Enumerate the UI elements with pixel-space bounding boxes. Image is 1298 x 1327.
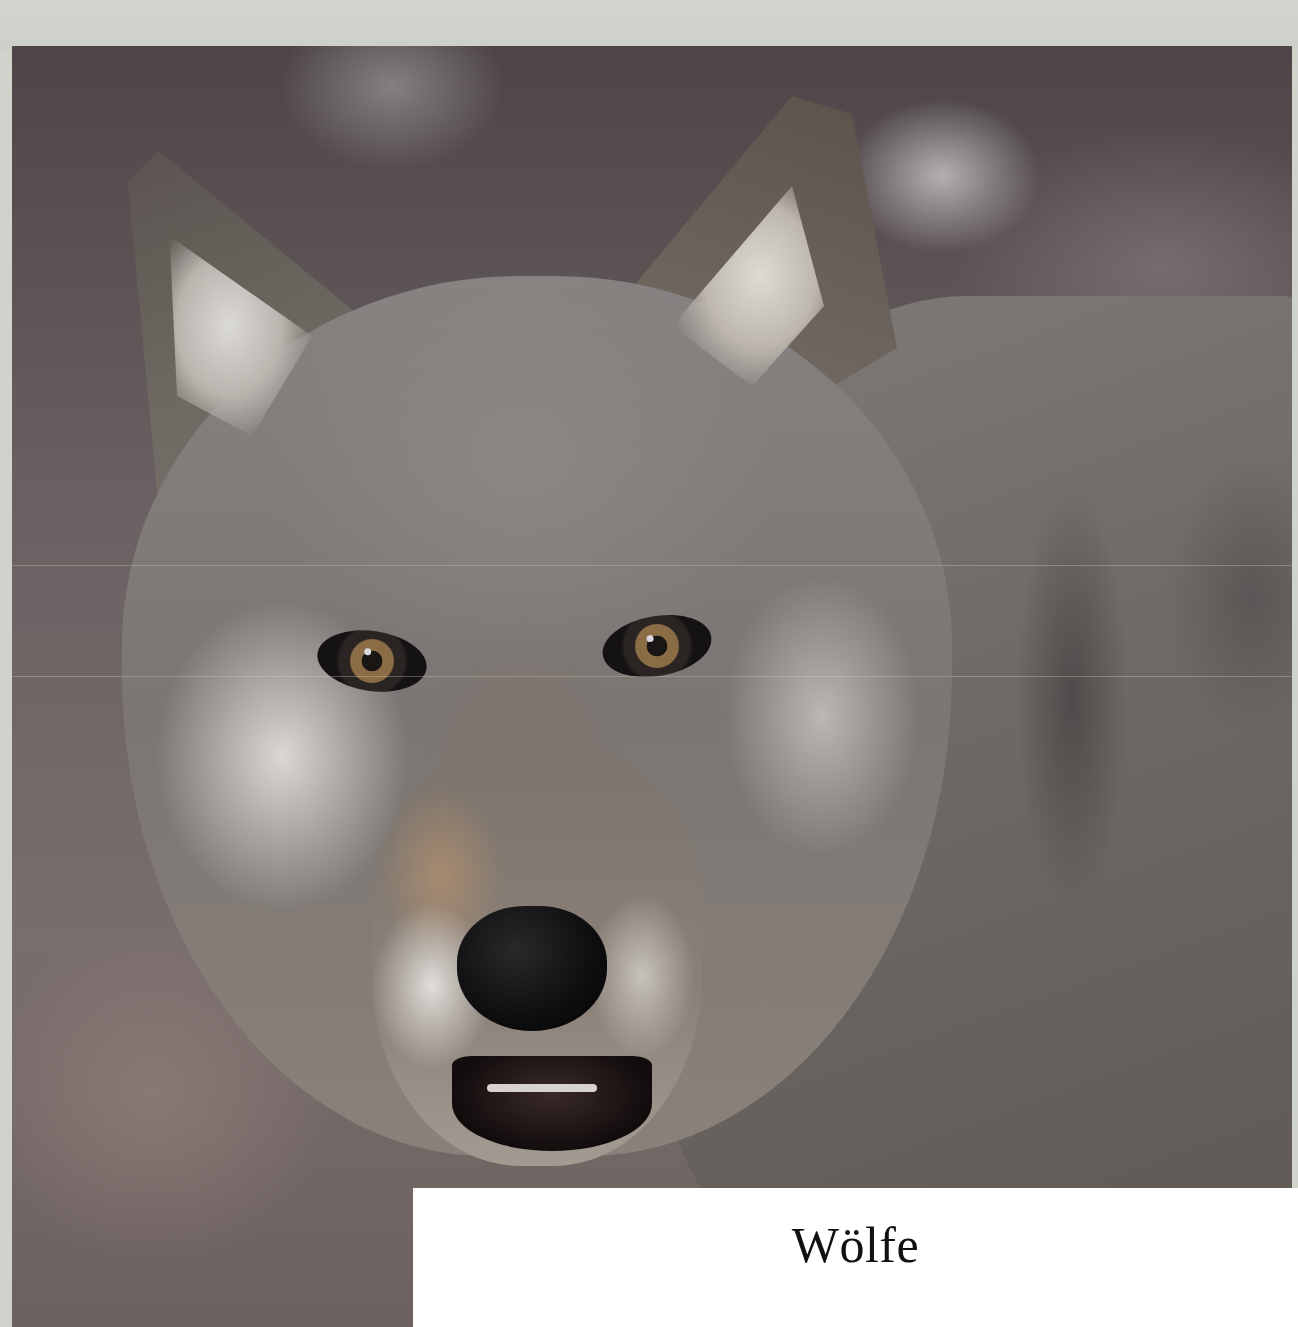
wolf-nose <box>457 906 607 1031</box>
scan-line <box>12 565 1292 566</box>
wolf-mouth <box>452 1056 652 1151</box>
scan-line <box>12 676 1292 677</box>
title-box: Wölfe <box>413 1188 1298 1327</box>
book-title: Wölfe <box>413 1216 1298 1274</box>
wolf-photo <box>12 46 1292 1327</box>
cover-top-margin <box>0 0 1298 50</box>
